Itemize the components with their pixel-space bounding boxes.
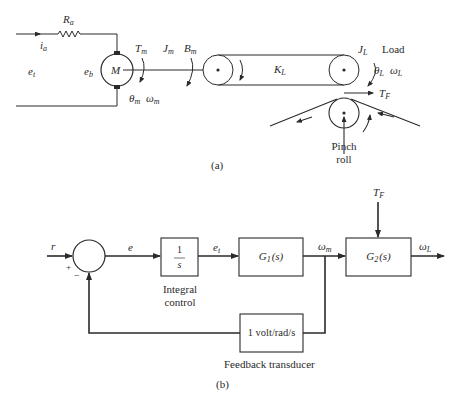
motor-torque-label: Tm — [135, 43, 147, 56]
caption-b: (b) — [216, 379, 229, 390]
terminal-voltage-label: et — [28, 66, 35, 79]
caption-a: (a) — [211, 160, 223, 171]
g2-label: G2 (s) — [346, 251, 411, 264]
omega-l-label: ωL — [419, 241, 431, 254]
feedback-caption: Feedback transducer — [224, 359, 315, 370]
reference-label: r — [51, 241, 55, 252]
load-angle-label: θL — [374, 65, 384, 78]
feedback-gain-label: 1 volt/rad/s — [240, 328, 303, 339]
omega-m-label: ωm — [318, 241, 332, 254]
load-inertia-label: JL — [358, 44, 367, 57]
belt-stiffness-label: KL — [274, 64, 286, 77]
load-label: Load — [382, 44, 405, 55]
load-velocity-label: ωL — [390, 65, 402, 78]
friction-arrow-icon — [187, 58, 193, 86]
motor-velocity-label: ωm — [146, 93, 160, 106]
pinch-roll-label: Pinch roll — [322, 140, 366, 165]
integral-denominator: s — [161, 260, 198, 270]
g1-label: G1 (s) — [239, 251, 303, 264]
integral-numerator: 1 — [161, 245, 198, 255]
current-label: ia — [40, 40, 47, 53]
motor-angle-label: θm — [129, 93, 140, 106]
resistor-icon — [58, 31, 80, 37]
tension-label: TF — [379, 88, 390, 101]
minus-sign: − — [74, 271, 80, 281]
motor-friction-label: Bm — [184, 43, 197, 56]
belt-drive — [203, 55, 376, 86]
summing-junction — [73, 240, 105, 272]
et-label: et — [213, 242, 220, 255]
motor-label: M — [111, 65, 120, 76]
diagram-canvas — [0, 0, 460, 405]
resistor-label: Ra — [63, 14, 74, 27]
error-label: e — [128, 242, 133, 253]
plus-sign: + — [66, 263, 71, 272]
feedback-wire — [303, 256, 325, 333]
back-emf-label: eb — [84, 66, 93, 79]
motor-inertia-label: Jm — [163, 43, 174, 56]
integral-caption: Integral control — [150, 283, 210, 308]
disturbance-label: TF — [373, 187, 384, 200]
